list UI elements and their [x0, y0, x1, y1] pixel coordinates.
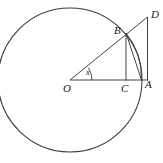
label-point-C: C [121, 83, 128, 94]
segment-BA [126, 33, 142, 80]
label-point-B: B [114, 25, 121, 36]
label-point-A: A [145, 79, 152, 90]
label-point-O: O [63, 83, 71, 94]
figure-canvas [0, 0, 163, 163]
geometry-figure: O C A B D x [0, 0, 163, 163]
label-point-D: D [151, 9, 159, 20]
label-angle-x: x [86, 68, 90, 77]
